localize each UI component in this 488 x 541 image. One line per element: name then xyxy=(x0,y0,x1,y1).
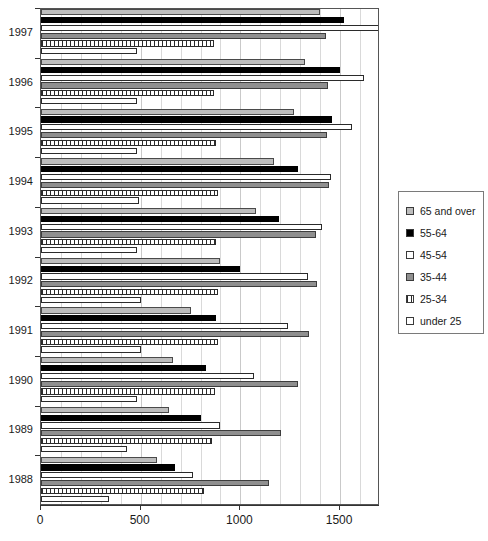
bar-group-1988 xyxy=(41,456,378,505)
bar-1994-35-44 xyxy=(41,182,329,188)
x-axis-label-0: 0 xyxy=(37,513,44,527)
bar-1997-under-25 xyxy=(41,48,137,54)
y-axis-label-1992: 1992 xyxy=(0,275,33,286)
y-axis-tick xyxy=(35,306,40,307)
x-axis-tick xyxy=(339,505,340,510)
bar-1990-25-34 xyxy=(41,388,215,394)
bar-1992-under-25 xyxy=(41,297,141,303)
bar-1991-25-34 xyxy=(41,339,218,345)
y-axis-tick xyxy=(35,157,40,158)
bar-1990-35-44 xyxy=(41,381,298,387)
bar-1996-45-54 xyxy=(41,75,364,81)
bar-1988-45-54 xyxy=(41,472,193,478)
bar-1991-45-54 xyxy=(41,323,288,329)
plot-area xyxy=(40,8,379,505)
legend-swatch-icon xyxy=(406,229,414,237)
y-axis-label-1995: 1995 xyxy=(0,126,33,137)
legend-item-35-44[interactable]: 35-44 xyxy=(406,266,483,288)
bar-1996-65-and-over xyxy=(41,59,305,65)
x-axis-label-1500: 1500 xyxy=(326,513,353,527)
bar-1997-65-and-over xyxy=(41,9,320,15)
x-axis-tick xyxy=(239,505,240,510)
bar-1997-25-34 xyxy=(41,40,214,46)
bar-1988-25-34 xyxy=(41,488,204,494)
bar-1988-55-64 xyxy=(41,464,175,470)
bar-1992-25-34 xyxy=(41,289,218,295)
legend-label: 55-64 xyxy=(420,227,447,239)
bar-1991-65-and-over xyxy=(41,307,191,313)
y-axis-label-1993: 1993 xyxy=(0,226,33,237)
x-axis-label-500: 500 xyxy=(130,513,150,527)
bar-chart: 1997199619951994199319921991199019891988… xyxy=(0,0,488,541)
bar-1989-55-64 xyxy=(41,415,201,421)
y-axis-label-1994: 1994 xyxy=(0,176,33,187)
legend-item-25-34[interactable]: 25-34 xyxy=(406,288,483,310)
bar-1997-35-44 xyxy=(41,33,326,39)
bar-1997-55-64 xyxy=(41,17,344,23)
legend-swatch-icon xyxy=(406,295,414,303)
bar-group-1997 xyxy=(41,9,378,59)
bar-1988-under-25 xyxy=(41,496,109,502)
bar-1990-65-and-over xyxy=(41,357,173,363)
bar-1993-25-34 xyxy=(41,239,216,245)
bar-1994-65-and-over xyxy=(41,158,274,164)
bar-group-1995 xyxy=(41,108,378,158)
bar-1988-65-and-over xyxy=(41,457,157,463)
y-axis-tick xyxy=(35,257,40,258)
x-axis-line xyxy=(40,505,379,506)
y-axis-label-1989: 1989 xyxy=(0,424,33,435)
bar-1992-45-54 xyxy=(41,273,308,279)
bar-group-1992 xyxy=(41,258,378,308)
bar-1993-35-44 xyxy=(41,231,316,237)
bar-1993-65-and-over xyxy=(41,208,256,214)
bar-group-1990 xyxy=(41,357,378,407)
bar-group-1989 xyxy=(41,407,378,457)
bar-1988-35-44 xyxy=(41,480,269,486)
y-axis-label-1997: 1997 xyxy=(0,27,33,38)
legend-label: 65 and over xyxy=(420,205,475,217)
legend-swatch-icon xyxy=(406,207,414,215)
bar-1989-under-25 xyxy=(41,446,127,452)
bar-1995-55-64 xyxy=(41,116,332,122)
legend-item-55-64[interactable]: 55-64 xyxy=(406,222,483,244)
bar-1996-under-25 xyxy=(41,98,137,104)
bar-1991-under-25 xyxy=(41,346,141,352)
bar-1989-35-44 xyxy=(41,430,281,436)
bar-1995-45-54 xyxy=(41,124,352,130)
y-axis-label-1988: 1988 xyxy=(0,474,33,485)
bar-1989-25-34 xyxy=(41,438,212,444)
bar-1991-55-64 xyxy=(41,315,216,321)
bar-group-1994 xyxy=(41,158,378,208)
bar-1996-25-34 xyxy=(41,90,214,96)
legend-label: 45-54 xyxy=(420,249,447,261)
x-axis-label-1000: 1000 xyxy=(226,513,253,527)
x-axis-tick xyxy=(140,505,141,510)
bar-group-1993 xyxy=(41,208,378,258)
legend-label: under 25 xyxy=(420,315,461,327)
bar-1995-35-44 xyxy=(41,132,327,138)
y-axis-tick xyxy=(35,356,40,357)
bar-1995-25-34 xyxy=(41,140,216,146)
bar-1990-55-64 xyxy=(41,365,206,371)
y-axis-tick xyxy=(35,8,40,9)
bar-1992-65-and-over xyxy=(41,258,220,264)
legend: 65 and over55-6445-5435-4425-34under 25 xyxy=(398,191,484,334)
legend-item-65-and-over[interactable]: 65 and over xyxy=(406,200,483,222)
bar-1992-35-44 xyxy=(41,281,317,287)
y-axis-tick xyxy=(35,455,40,456)
legend-item-under-25[interactable]: under 25 xyxy=(406,310,483,332)
y-axis-label-1996: 1996 xyxy=(0,77,33,88)
bar-group-1996 xyxy=(41,59,378,109)
y-axis-tick xyxy=(35,207,40,208)
legend-swatch-icon xyxy=(406,317,414,325)
bar-1989-65-and-over xyxy=(41,407,169,413)
legend-item-45-54[interactable]: 45-54 xyxy=(406,244,483,266)
legend-swatch-icon xyxy=(406,251,414,259)
bar-1993-55-64 xyxy=(41,216,279,222)
bar-1994-45-54 xyxy=(41,174,331,180)
bar-1995-65-and-over xyxy=(41,109,294,115)
bar-1991-35-44 xyxy=(41,331,309,337)
y-axis-tick xyxy=(35,58,40,59)
y-axis-label-1990: 1990 xyxy=(0,375,33,386)
bar-1990-under-25 xyxy=(41,396,137,402)
